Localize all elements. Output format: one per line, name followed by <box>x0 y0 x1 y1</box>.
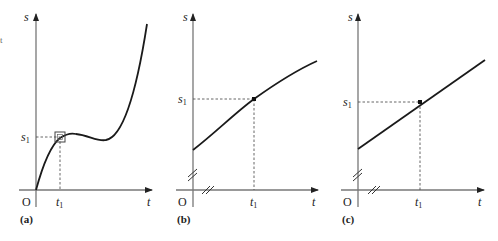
t1-label: t1 <box>415 195 422 210</box>
origin-label: O <box>22 195 31 209</box>
figure-canvas: t s t O s1 t1 (a) s t O s1 t1 (b) <box>0 0 498 241</box>
position-time-line <box>358 60 485 149</box>
s1-label: s1 <box>343 95 352 110</box>
panel-b: s t O s1 t1 (b) <box>176 10 318 226</box>
panel-caption: (b) <box>177 213 191 226</box>
panel-caption: (a) <box>20 213 33 226</box>
y-axis-label: s <box>183 10 188 24</box>
origin-label: O <box>343 195 352 209</box>
y-axis-label: s <box>24 10 29 24</box>
t1-label: t1 <box>56 195 63 210</box>
panel-caption: (c) <box>342 213 355 226</box>
position-time-curve <box>193 61 317 150</box>
y-axis-label: s <box>348 10 353 24</box>
edge-text-fragment: t <box>0 35 3 45</box>
s1-label: s1 <box>21 130 30 145</box>
x-axis-label: t <box>147 195 151 209</box>
t1-label: t1 <box>250 195 257 210</box>
x-axis-label: t <box>312 195 316 209</box>
origin-label: O <box>178 195 187 209</box>
x-axis-label: t <box>478 195 482 209</box>
point-marker <box>418 100 422 104</box>
panel-a: s t O s1 t1 (a) <box>19 10 152 226</box>
s1-label: s1 <box>178 92 187 107</box>
position-time-curve <box>36 24 147 190</box>
point-marker <box>252 97 256 101</box>
panel-c: s t O s1 t1 (c) <box>341 10 485 226</box>
